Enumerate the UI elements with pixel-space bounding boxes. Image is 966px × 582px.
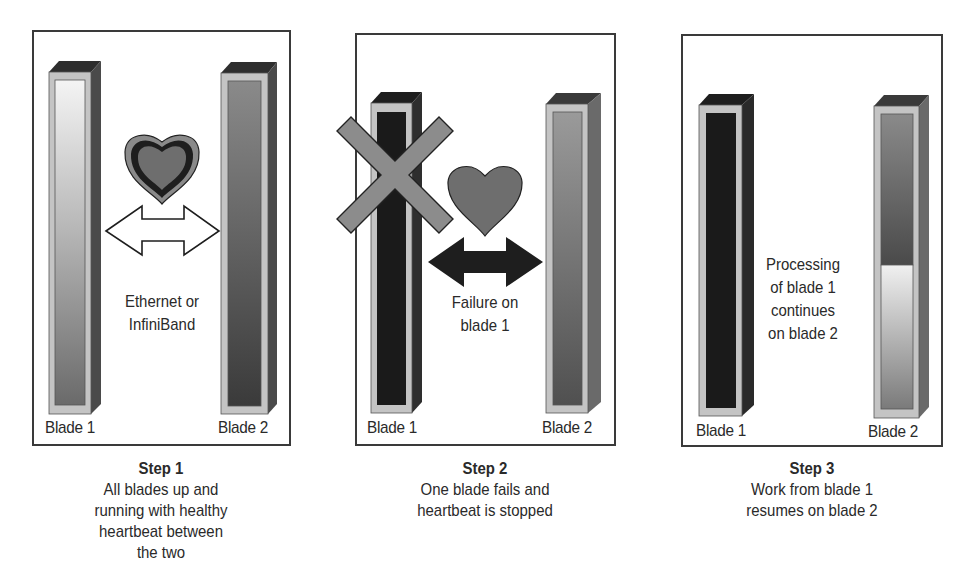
failure-label-line: Failure on: [439, 291, 531, 314]
blade-2-label: Blade 2: [542, 418, 592, 438]
caption-line: running with healthy: [73, 500, 249, 521]
double-arrow-icon: [106, 206, 219, 255]
failure-label-line: blade 1: [439, 314, 531, 337]
blade-2-healthy: [546, 93, 601, 413]
takeover-label-line: on blade 2: [759, 322, 847, 345]
link-label-line: Ethernet or: [116, 290, 208, 313]
step1-title: Step 1: [73, 458, 249, 479]
caption-line: heartbeat between: [73, 521, 249, 542]
link-label-line: InfiniBand: [116, 313, 208, 336]
heart-healthy-icon: [125, 135, 199, 204]
caption-line: One blade fails and: [397, 479, 573, 500]
link-label: Ethernet or InfiniBand: [116, 290, 208, 336]
step3-diagram: [683, 36, 945, 449]
step3-caption: Step 3 Work from blade 1 resumes on blad…: [724, 458, 900, 521]
blade-1-healthy: [49, 61, 101, 414]
heart-stopped-icon: [445, 162, 525, 238]
step2-title: Step 2: [397, 458, 573, 479]
step3-title: Step 3: [724, 458, 900, 479]
takeover-label-line: Processing: [759, 253, 847, 276]
takeover-label: Processing of blade 1 continues on blade…: [759, 253, 847, 345]
caption-line: the two: [73, 542, 249, 563]
caption-line: All blades up and: [73, 479, 249, 500]
blade-2-label: Blade 2: [868, 422, 918, 442]
step1-panel: Ethernet or InfiniBand Blade 1 Blade 2: [32, 30, 291, 446]
takeover-label-line: continues: [759, 299, 847, 322]
caption-line: resumes on blade 2: [724, 500, 900, 521]
failure-label: Failure on blade 1: [439, 291, 531, 337]
step3-panel: Processing of blade 1 continues on blade…: [681, 34, 943, 447]
step2-panel: Failure on blade 1 Blade 1 Blade 2: [355, 33, 616, 446]
step1-caption: Step 1 All blades up and running with he…: [73, 458, 249, 563]
blade-1-label: Blade 1: [696, 421, 746, 441]
blade-2-healthy: [221, 62, 277, 414]
failure-x-icon: [337, 117, 457, 237]
step1-diagram: [34, 32, 293, 448]
caption-line: Work from blade 1: [724, 479, 900, 500]
takeover-label-line: of blade 1: [759, 276, 847, 299]
blade-2-label: Blade 2: [218, 418, 268, 438]
blade-1-failed: [699, 94, 754, 416]
step2-caption: Step 2 One blade fails and heartbeat is …: [397, 458, 573, 521]
blade-2-takeover: [874, 95, 929, 418]
blade-1-label: Blade 1: [45, 418, 95, 438]
double-arrow-solid-icon: [426, 236, 546, 290]
blade-1-label: Blade 1: [367, 418, 417, 438]
caption-line: heartbeat is stopped: [397, 500, 573, 521]
